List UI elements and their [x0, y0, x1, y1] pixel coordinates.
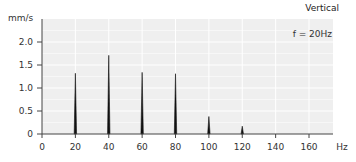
y-tick-label: 0 — [27, 129, 33, 139]
y-tick-label: 1.0 — [19, 83, 34, 93]
spectrum-chart: 00.51.01.52.0 020406080100120140160 mm/s… — [0, 0, 356, 162]
chart-title: Vertical — [305, 3, 339, 13]
y-tick-label: 0.5 — [19, 106, 33, 116]
y-axis-label: mm/s — [8, 13, 34, 23]
y-ticks: 00.51.01.52.0 — [19, 37, 42, 139]
x-tick-label: 120 — [234, 142, 251, 152]
y-tick-label: 2.0 — [19, 37, 34, 47]
y-tick-label: 1.5 — [19, 60, 33, 70]
x-tick-label: 100 — [200, 142, 217, 152]
frequency-annotation: f = 20Hz — [293, 29, 333, 39]
x-tick-label: 160 — [300, 142, 317, 152]
x-tick-label: 80 — [170, 142, 182, 152]
x-tick-label: 20 — [70, 142, 82, 152]
x-tick-label: 60 — [136, 142, 148, 152]
x-axis-label: Hz — [336, 142, 348, 152]
x-ticks: 020406080100120140160 — [39, 134, 318, 152]
x-tick-label: 140 — [267, 142, 284, 152]
x-tick-label: 0 — [39, 142, 45, 152]
x-tick-label: 40 — [103, 142, 115, 152]
